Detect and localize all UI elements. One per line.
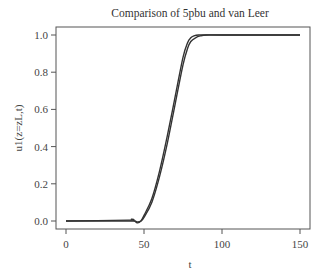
x-axis-label: t bbox=[188, 258, 191, 270]
y-axis-label: u1(z=zL,t) bbox=[12, 104, 25, 151]
series-lines bbox=[66, 35, 300, 223]
chart: Comparison of 5pbu and van Leer 0.00.20.… bbox=[0, 0, 327, 278]
series-line-van-leer bbox=[66, 35, 300, 222]
y-tick-label: 0.4 bbox=[34, 141, 48, 153]
y-tick-label: 0.8 bbox=[34, 66, 48, 78]
x-axis: 050100150 bbox=[63, 229, 309, 250]
chart-title: Comparison of 5pbu and van Leer bbox=[111, 7, 269, 20]
y-tick-label: 0.0 bbox=[34, 215, 48, 227]
x-tick-label: 150 bbox=[292, 238, 309, 250]
x-tick-label: 100 bbox=[214, 238, 231, 250]
x-tick-label: 50 bbox=[139, 238, 151, 250]
y-tick-label: 0.2 bbox=[34, 178, 48, 190]
y-tick-label: 0.6 bbox=[34, 103, 48, 115]
y-axis: 0.00.20.40.60.81.0 bbox=[34, 29, 56, 227]
y-tick-label: 1.0 bbox=[34, 29, 48, 41]
x-tick-label: 0 bbox=[63, 238, 69, 250]
